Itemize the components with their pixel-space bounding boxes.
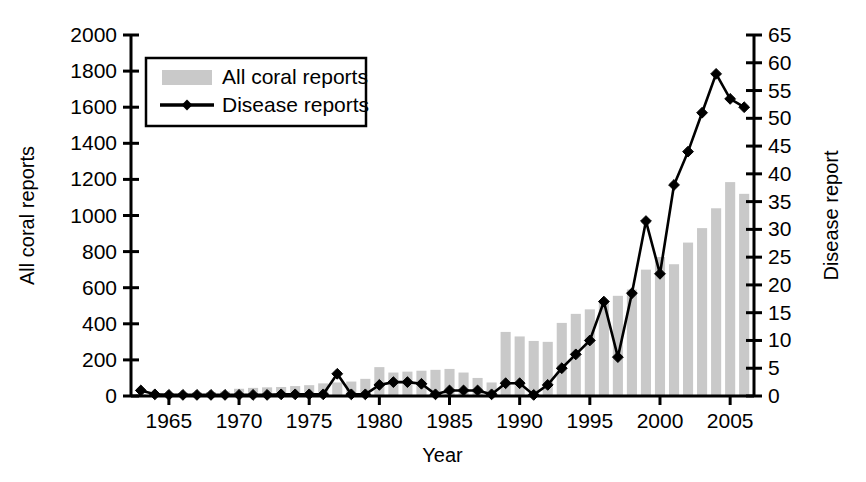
y-axis-right-tick-label: 30 [768,217,791,240]
legend-label-disease-reports: Disease reports [222,93,369,116]
x-axis-tick-label: 2000 [637,409,684,432]
data-point-marker [163,389,174,400]
bar [683,243,693,396]
y-axis-left-tick-label: 1600 [70,95,117,118]
x-axis-tick-label: 1970 [216,409,263,432]
y-axis-left-tick-label: 800 [82,240,117,263]
x-axis-tick-label: 1985 [426,409,473,432]
data-point-marker [192,389,203,400]
legend-label-all-coral-reports: All coral reports [222,65,368,88]
data-point-marker [641,216,652,227]
y-axis-left-tick-label: 2000 [70,23,117,46]
y-axis-right-tick-label: 45 [768,134,791,157]
y-axis-right-tick-label: 50 [768,106,791,129]
bar-series-all-coral-reports [136,182,749,396]
data-point-marker [669,180,680,191]
data-point-marker [739,102,750,113]
bar [332,382,342,396]
y-axis-right-tick-label: 35 [768,190,791,213]
x-axis-tick-label: 2005 [707,409,754,432]
x-axis-tick-label: 1980 [356,409,403,432]
bar [557,323,567,396]
y-axis-left-tick-label: 1800 [70,59,117,82]
legend-swatch-all-coral-reports [162,70,212,85]
data-point-marker [206,389,217,400]
data-point-marker [149,389,160,400]
y-axis-right-tick-label: 10 [768,328,791,351]
bar [725,182,735,396]
y-axis-left-tick-label: 1200 [70,167,117,190]
y-axis-right-tick-label: 55 [768,79,791,102]
x-axis-tick-label: 1995 [566,409,613,432]
y-axis-right-tick-label: 0 [768,384,780,407]
y-axis-right-tick-label: 65 [768,23,791,46]
y-axis-left-title: All coral reports [16,146,38,285]
y-axis-left-tick-label: 400 [82,312,117,335]
bar [585,309,595,396]
x-axis-tick-label: 1965 [146,409,193,432]
chart-canvas: 0200400600800100012001400160018002000051… [0,0,866,482]
x-axis-tick-label: 1975 [286,409,333,432]
y-axis-left-tick-label: 0 [105,384,117,407]
bar [641,270,651,396]
bar [529,341,539,396]
y-axis-left-tick-label: 1000 [70,204,117,227]
chart-legend: All coral reportsDisease reports [146,58,369,126]
bar [697,228,707,396]
bar [711,208,721,396]
data-point-marker [711,68,722,79]
y-axis-left-tick-label: 600 [82,276,117,299]
data-point-marker [725,93,736,104]
x-axis-tick-label: 1990 [496,409,543,432]
x-axis-title: Year [422,444,463,466]
bar [739,194,749,396]
data-point-marker [697,107,708,118]
y-axis-right-title: Disease report [820,150,842,281]
y-axis-right-tick-label: 5 [768,356,780,379]
bar [669,264,679,396]
y-axis-left-tick-label: 200 [82,348,117,371]
y-axis-right-tick-label: 20 [768,273,791,296]
y-axis-left-tick-label: 1400 [70,131,117,154]
data-point-marker [683,146,694,157]
data-point-marker [220,389,231,400]
y-axis-right-tick-label: 15 [768,301,791,324]
y-axis-right-tick-label: 25 [768,245,791,268]
chart-figure: 0200400600800100012001400160018002000051… [0,0,866,482]
data-point-marker [178,389,189,400]
y-axis-right-tick-label: 60 [768,51,791,74]
y-axis-right-tick-label: 40 [768,162,791,185]
